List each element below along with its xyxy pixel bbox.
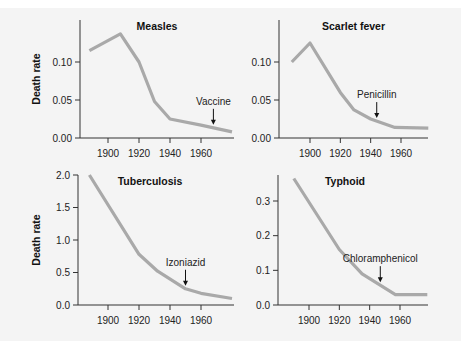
x-tick-label: 1940 (360, 148, 383, 159)
arrow-head-icon (183, 281, 188, 286)
y-tick-label: 0.0 (56, 300, 70, 311)
x-tick-label: 1900 (298, 315, 321, 326)
x-tick-label: 1960 (390, 148, 413, 159)
y-tick-label: 0.2 (256, 230, 270, 241)
y-tick-label: 0.1 (256, 265, 270, 276)
y-axis-label: Death rate (30, 214, 42, 266)
annotation-label: Penicillin (357, 89, 396, 100)
arrow-head-icon (211, 120, 216, 125)
x-tick-label: 1920 (128, 315, 151, 326)
figure-panel-grid: 19001920194019600.000.050.10Death rateMe… (0, 8, 461, 341)
x-tick-label: 1960 (190, 148, 213, 159)
x-tick-label: 1900 (97, 148, 120, 159)
series-line (89, 34, 232, 132)
annotation-label: Chloramphenicol (343, 253, 418, 264)
x-tick-label: 1900 (97, 315, 120, 326)
chart-title: Scarlet fever (322, 20, 385, 32)
y-tick-label: 0.0 (256, 300, 270, 311)
x-tick-label: 1920 (128, 148, 151, 159)
y-tick-label: 0.3 (256, 196, 270, 207)
x-tick-label: 1960 (389, 315, 412, 326)
y-tick-label: 0.10 (252, 57, 272, 68)
annotation-label: Vaccine (196, 96, 231, 107)
y-tick-label: 1.5 (56, 202, 70, 213)
charts-canvas: 19001920194019600.000.050.10Death rateMe… (0, 8, 461, 341)
series-line (292, 43, 429, 128)
x-tick-label: 1920 (329, 148, 352, 159)
series-line (294, 179, 428, 295)
y-tick-label: 0.05 (53, 95, 73, 106)
chart-title: Typhoid (325, 175, 365, 187)
y-tick-label: 0.10 (53, 57, 73, 68)
x-tick-label: 1900 (299, 148, 322, 159)
arrow-head-icon (374, 113, 379, 118)
y-tick-label: 1.0 (56, 235, 70, 246)
y-tick-label: 0.5 (56, 267, 70, 278)
y-tick-label: 0.00 (252, 133, 272, 144)
x-tick-label: 1940 (159, 315, 182, 326)
y-tick-label: 2.0 (56, 170, 70, 181)
y-tick-label: 0.00 (53, 133, 73, 144)
chart-title: Tuberculosis (118, 175, 183, 187)
x-tick-label: 1920 (328, 315, 351, 326)
series-line (89, 175, 232, 299)
chart-scarlet-fever: 19001920194019600.000.050.10Scarlet feve… (252, 20, 429, 159)
x-tick-label: 1940 (359, 315, 382, 326)
chart-title: Measles (137, 20, 178, 32)
chart-typhoid: 19001920194019600.00.10.20.3TyphoidChlor… (256, 175, 428, 326)
y-axis-label: Death rate (30, 53, 42, 105)
arrow-head-icon (378, 277, 383, 282)
chart-measles: 19001920194019600.000.050.10Death rateMe… (30, 20, 234, 159)
annotation-label: Izoniazid (166, 257, 205, 268)
x-tick-label: 1960 (190, 315, 213, 326)
x-tick-label: 1940 (159, 148, 182, 159)
chart-tuberculosis: 19001920194019600.00.51.01.52.0Death rat… (30, 170, 234, 327)
y-tick-label: 0.05 (252, 95, 272, 106)
